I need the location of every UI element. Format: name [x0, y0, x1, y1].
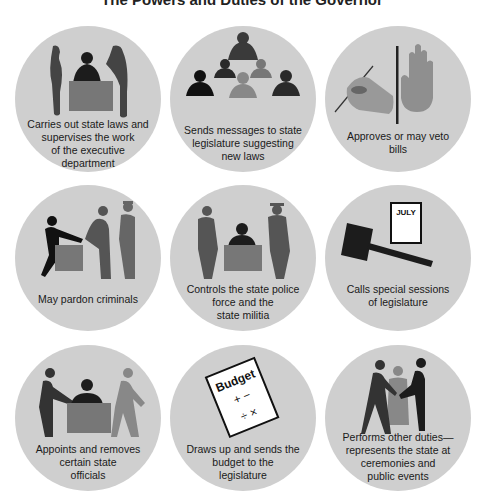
duty-appoints: Appoints and removes certain state offic… [15, 345, 161, 491]
duty-ceremonies: Performs other duties— represents the st… [325, 345, 471, 491]
duty-caption: Sends messages to state legislature sugg… [180, 124, 306, 163]
duty-police: Controls the state police force and the … [170, 185, 316, 331]
gavel-and-calendar-icon: JULY [325, 185, 471, 331]
calendar-label: JULY [396, 208, 416, 217]
duty-executive: Carries out state laws and supervises th… [15, 26, 161, 172]
duty-caption: Appoints and removes certain state offic… [25, 443, 151, 482]
duty-caption: Draws up and sends the budget to the leg… [180, 443, 306, 482]
duty-veto: Approves or may veto bills [325, 26, 471, 172]
duty-sessions: JULY Calls special sessions of legislatu… [325, 185, 471, 331]
duty-pardon: May pardon criminals [15, 185, 161, 331]
duty-caption: Carries out state laws and supervises th… [25, 118, 151, 170]
duty-caption: Calls special sessions of legislature [335, 283, 461, 309]
duty-caption: May pardon criminals [25, 293, 151, 306]
duty-caption: Performs other duties— represents the st… [335, 431, 461, 483]
pardon-handshake-icon [15, 185, 161, 331]
duty-messages: Sends messages to state legislature sugg… [170, 26, 316, 172]
duty-budget: Budget + − ÷ × Draws up and sends the bu… [170, 345, 316, 491]
duty-caption: Controls the state police force and the … [180, 283, 306, 322]
duty-caption: Approves or may veto bills [335, 130, 461, 156]
page-title: The Powers and Duties of the Governor [0, 0, 484, 8]
